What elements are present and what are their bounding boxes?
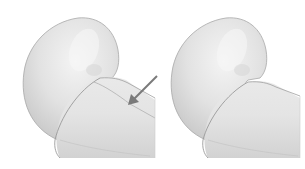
pipe-elbow-illustration	[148, 0, 305, 169]
pipe-elbow-without-seam-figure: Pipe elbow without seam line	[148, 0, 305, 169]
pipe-elbow-illustration	[0, 0, 160, 169]
pipe-elbow-with-seam-figure: Pipe elbow with visible seam line	[0, 0, 160, 169]
